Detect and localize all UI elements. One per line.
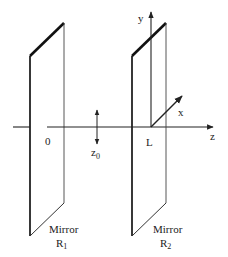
mirror-r1-top-edge <box>30 23 64 56</box>
mirror-r2-top-edge <box>132 23 166 56</box>
mirror-r1 <box>30 23 64 236</box>
l-label: L <box>146 136 153 148</box>
mirror-r1-label: Mirror <box>49 223 79 235</box>
mirror-r2-symbol-sub: 2 <box>167 242 171 251</box>
x-axis-label: x <box>178 106 184 118</box>
resonator-diagram: 0 z0 L y x z Mirror R1 Mirror R2 <box>0 0 228 257</box>
mirror-r1-symbol: R1 <box>56 237 67 251</box>
mirror-r1-symbol-sub: 1 <box>63 242 67 251</box>
y-axis-label: y <box>138 12 144 24</box>
z0-label-sub: 0 <box>96 152 100 161</box>
mirror-r2-label: Mirror <box>153 223 183 235</box>
origin-label: 0 <box>45 135 51 147</box>
z0-label: z0 <box>91 146 100 161</box>
mirror-r2-symbol: R2 <box>160 237 171 251</box>
z-axis-label: z <box>210 130 215 142</box>
mirror-r2 <box>132 23 166 236</box>
